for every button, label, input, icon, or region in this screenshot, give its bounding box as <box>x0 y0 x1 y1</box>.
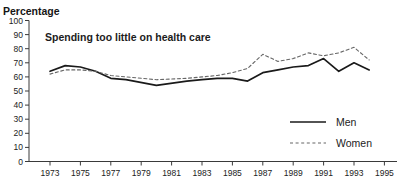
y-axis-tick-label: 0 <box>18 157 23 167</box>
legend-label-men: Men <box>336 116 356 128</box>
legend-line-solid-icon <box>289 120 327 124</box>
legend-item-women: Women <box>289 137 372 149</box>
y-axis-tick-label: 90 <box>14 30 24 40</box>
legend-line-dashed-icon <box>289 141 327 145</box>
y-axis-tick-label: 60 <box>14 72 24 82</box>
x-axis-tick-label: 1993 <box>345 168 364 178</box>
x-axis-tick-label: 1989 <box>284 168 303 178</box>
legend: Men Women <box>289 116 372 149</box>
legend-item-men: Men <box>289 116 372 128</box>
x-axis-tick-label: 1983 <box>193 168 212 178</box>
series-line-men <box>50 59 369 86</box>
y-axis-tick-label: 70 <box>14 58 24 68</box>
x-axis-tick-label: 1979 <box>132 168 151 178</box>
y-axis-tick-label: 80 <box>14 44 24 54</box>
chart-page: 1973-1994 Percentage Spending too little… <box>0 0 402 188</box>
y-axis-tick-label: 40 <box>14 100 24 110</box>
x-axis-tick-label: 1973 <box>41 168 60 178</box>
y-axis-tick-label: 10 <box>14 142 24 152</box>
x-axis-tick-label: 1977 <box>101 168 120 178</box>
y-axis-tick-label: 30 <box>14 114 24 124</box>
y-axis-tick-label: 50 <box>14 86 24 96</box>
x-axis-tick-label: 1981 <box>162 168 181 178</box>
chart-svg: 0102030405060708090100197319751977197919… <box>0 0 402 188</box>
x-axis-tick-label: 1991 <box>314 168 333 178</box>
x-axis-tick-label: 1985 <box>223 168 242 178</box>
y-axis-tick-label: 100 <box>9 16 23 26</box>
series-line-women <box>50 47 369 79</box>
x-axis-tick-label: 1987 <box>253 168 272 178</box>
x-axis-tick-label: 1995 <box>375 168 394 178</box>
x-axis-tick-label: 1975 <box>71 168 90 178</box>
legend-label-women: Women <box>336 137 372 149</box>
y-axis-tick-label: 20 <box>14 128 24 138</box>
